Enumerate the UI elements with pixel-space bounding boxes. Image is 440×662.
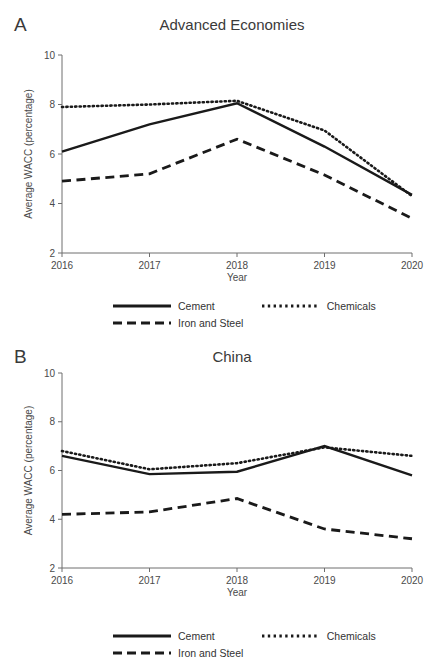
legend-swatch-chemicals [262, 301, 320, 311]
x-tick-label: 2018 [226, 260, 249, 271]
y-axis-title: Average WACC (percentage) [23, 89, 34, 219]
legend-swatch-cement [113, 301, 171, 311]
legend-label-iron-and-steel: Iron and Steel [178, 317, 243, 329]
panel-advanced-economies: A Advanced Economies 2468102016201720182… [0, 0, 440, 336]
x-tick-label: 2020 [401, 575, 424, 586]
x-axis-title: Year [227, 272, 248, 283]
x-tick-label: 2019 [313, 260, 336, 271]
y-tick-label: 6 [49, 149, 55, 160]
figure-root: A Advanced Economies 2468102016201720182… [0, 0, 440, 662]
legend-swatch-iron-and-steel [113, 318, 171, 328]
y-tick-label: 4 [49, 514, 55, 525]
y-tick-label: 10 [44, 50, 56, 61]
series-line-iron-and-steel [62, 499, 412, 539]
legend-entry-chemicals[interactable]: Chemicals [262, 297, 376, 314]
y-tick-label: 2 [49, 248, 55, 259]
legend-a: Cement Chemicals Iron and Steel [0, 297, 440, 331]
plot-area-a: 24681020162017201820192020YearAverage WA… [0, 0, 440, 300]
y-tick-label: 8 [49, 99, 55, 110]
legend-swatch-cement [113, 631, 171, 641]
legend-row-1: Cement Chemicals [0, 297, 440, 314]
legend-label-chemicals: Chemicals [327, 630, 376, 642]
x-tick-label: 2016 [51, 260, 74, 271]
legend-row-1: Cement Chemicals [0, 627, 440, 644]
legend-row-2: Iron and Steel [0, 314, 440, 331]
y-tick-label: 2 [49, 563, 55, 574]
x-axis-title: Year [227, 587, 248, 598]
legend-label-iron-and-steel: Iron and Steel [178, 647, 243, 659]
y-tick-label: 6 [49, 465, 55, 476]
x-tick-label: 2017 [138, 260, 161, 271]
legend-label-chemicals: Chemicals [327, 300, 376, 312]
y-tick-label: 10 [44, 368, 56, 379]
legend-entry-cement[interactable]: Cement [113, 297, 215, 314]
legend-entry-iron-and-steel[interactable]: Iron and Steel [113, 644, 243, 661]
y-axis-title: Average WACC (percentage) [23, 406, 34, 536]
series-line-iron-and-steel [62, 139, 412, 218]
panel-china: B China 24681020162017201820192020YearAv… [0, 332, 440, 662]
legend-row-2: Iron and Steel [0, 644, 440, 661]
legend-label-cement: Cement [178, 300, 215, 312]
x-tick-label: 2020 [401, 260, 424, 271]
series-line-chemicals [62, 101, 412, 196]
x-tick-label: 2018 [226, 575, 249, 586]
x-tick-label: 2019 [313, 575, 336, 586]
series-line-cement [62, 103, 412, 195]
y-tick-label: 8 [49, 416, 55, 427]
legend-swatch-iron-and-steel [113, 648, 171, 658]
legend-entry-cement[interactable]: Cement [113, 627, 215, 644]
plot-area-b: 24681020162017201820192020YearAverage WA… [0, 332, 440, 632]
legend-b: Cement Chemicals Iron and Steel [0, 627, 440, 661]
x-tick-label: 2016 [51, 575, 74, 586]
legend-entry-chemicals[interactable]: Chemicals [262, 627, 376, 644]
x-tick-label: 2017 [138, 575, 161, 586]
y-tick-label: 4 [49, 198, 55, 209]
legend-entry-iron-and-steel[interactable]: Iron and Steel [113, 314, 243, 331]
legend-label-cement: Cement [178, 630, 215, 642]
legend-swatch-chemicals [262, 631, 320, 641]
